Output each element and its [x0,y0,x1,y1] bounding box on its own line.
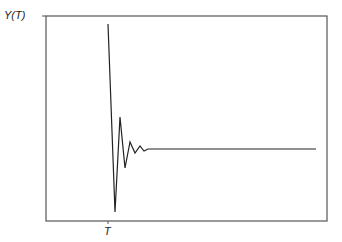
x-tick-label: T [104,225,111,237]
y-axis-label: Y(T) [4,9,25,21]
chart-canvas [0,0,342,242]
plot-frame [46,16,327,221]
response-line [108,24,316,212]
